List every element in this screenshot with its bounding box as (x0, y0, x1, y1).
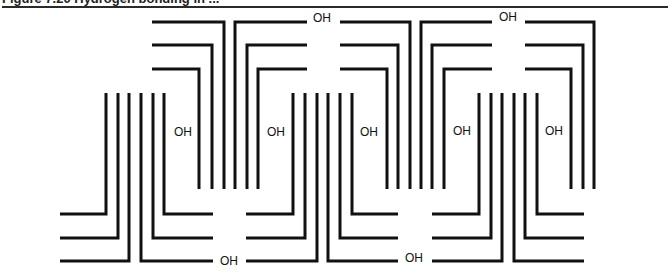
hydroxyl-label: OH (545, 124, 563, 138)
chain-segment (525, 93, 584, 238)
chain-segment (432, 45, 492, 189)
hydroxyl-label: OH (453, 124, 471, 138)
lower-chain-group (60, 93, 584, 261)
chain-segment (246, 93, 305, 238)
chain-segment (153, 93, 213, 238)
hydroxyl-label: OH (360, 125, 378, 139)
chain-segment (152, 45, 212, 189)
upper-chain-group (152, 22, 594, 189)
chain-segment (352, 93, 398, 214)
chain-segment (60, 93, 106, 214)
chain-segment (432, 93, 479, 214)
chain-segment (247, 45, 307, 189)
hydroxyl-label: OH (267, 125, 285, 139)
hydroxyl-label: OH (174, 125, 192, 139)
chain-segment (537, 93, 584, 214)
hydroxyl-label: OH (220, 254, 238, 268)
hydroxyl-label: OH (313, 11, 331, 25)
hydroxyl-labels: OHOHOHOHOHOHOHOHOH (174, 10, 563, 268)
chain-segment (432, 93, 491, 238)
chain-segment (525, 45, 583, 189)
hydroxyl-label: OH (405, 251, 423, 265)
cellulose-hydrogen-bond-diagram: OHOHOHOHOHOHOHOHOH (0, 0, 672, 274)
chain-segment (340, 45, 398, 189)
hydroxyl-label: OH (499, 10, 517, 24)
chain-segment (246, 93, 293, 214)
chain-segment (164, 93, 213, 214)
chain-segment (60, 93, 118, 238)
chain-segment (340, 93, 398, 238)
